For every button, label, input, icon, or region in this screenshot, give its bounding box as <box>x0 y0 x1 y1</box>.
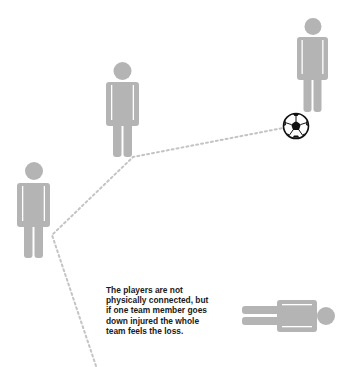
person-icon <box>17 162 50 258</box>
standing-player-middle <box>106 62 139 157</box>
person-icon <box>106 62 139 157</box>
caption-line: The players are not <box>106 285 236 295</box>
person-icon-lying <box>242 300 335 332</box>
caption-line: if one team member goes <box>106 305 236 315</box>
soccer-ball-icon <box>284 114 309 139</box>
caption-line: physically connected, but <box>106 295 236 305</box>
caption-text: The players are not physically connected… <box>106 285 236 336</box>
standing-player-right <box>297 18 328 112</box>
caption-line: team feels the loss. <box>106 326 236 336</box>
standing-player-left <box>17 162 50 258</box>
injured-player <box>242 300 335 332</box>
caption-line: down injured the whole <box>106 316 236 326</box>
person-icon <box>297 18 328 112</box>
